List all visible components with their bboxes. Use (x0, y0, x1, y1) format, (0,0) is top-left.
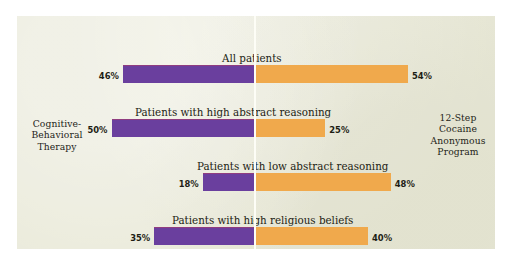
bar-twelve-step (254, 173, 391, 191)
chart-row: Patients with high religious beliefs35%4… (17, 200, 495, 246)
bar-cbt (112, 119, 255, 137)
bar-cbt (123, 65, 254, 83)
bar-cbt (203, 173, 254, 191)
bar-value-twelve-step: 40% (372, 233, 392, 243)
bar-value-cbt: 46% (99, 71, 119, 81)
center-axis-line (254, 16, 256, 249)
bar-twelve-step (254, 119, 325, 137)
right-axis-caption: 12-Step Cocaine Anonymous Program (420, 112, 496, 158)
category-label: All patients (222, 52, 282, 64)
bar-value-cbt: 35% (130, 233, 150, 243)
category-label: Patients with high abstract reasoning (135, 106, 331, 118)
bar-cbt (154, 227, 254, 245)
left-axis-caption: Cognitive- Behavioral Therapy (20, 118, 94, 152)
bar-twelve-step (254, 227, 368, 245)
bar-value-twelve-step: 54% (412, 71, 432, 81)
category-label: Patients with high religious beliefs (172, 214, 353, 226)
chart-row: All patients46%54% (17, 38, 495, 84)
category-label: Patients with low abstract reasoning (197, 160, 388, 172)
bar-value-twelve-step: 48% (395, 179, 415, 189)
chart-screenshot: Cognitive- Behavioral Therapy 12-Step Co… (0, 0, 512, 267)
bar-value-twelve-step: 25% (329, 125, 349, 135)
bar-value-cbt: 18% (179, 179, 199, 189)
bar-twelve-step (254, 65, 408, 83)
